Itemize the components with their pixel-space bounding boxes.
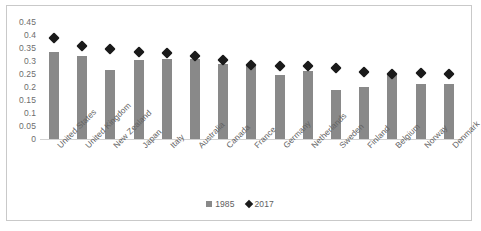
x-axis-tick: Australia [181,140,209,200]
y-axis-tick-label: 0 [31,134,36,144]
bar-1985[interactable] [162,59,172,139]
chart-container: 00.050.10.150.20.250.30.350.40.45 United… [6,5,472,221]
y-axis-tick-label: 0.3 [24,56,36,66]
y-axis-tick-label: 0.2 [24,82,36,92]
marker-2017[interactable] [274,60,285,71]
x-axis-tick: Japan [125,140,153,200]
x-axis-tick: Canada [209,140,237,200]
legend-diamond-icon [244,200,252,208]
x-axis-tick: Netherlands [294,140,322,200]
x-axis-tick: Denmark [435,140,463,200]
legend-label: 2017 [255,199,274,209]
y-axis: 00.050.10.150.20.250.30.350.40.45 [7,22,38,139]
x-axis-category-labels: United StatesUnited KingdomNew ZealandJa… [40,140,463,200]
bar-group[interactable] [266,22,294,139]
marker-2017[interactable] [415,68,426,79]
y-axis-tick-label: 0.05 [19,121,36,131]
marker-2017[interactable] [443,68,454,79]
bar-group[interactable] [350,22,378,139]
bar-group[interactable] [209,22,237,139]
bar-group[interactable] [435,22,463,139]
bar-group[interactable] [378,22,406,139]
marker-2017[interactable] [48,33,59,44]
marker-2017[interactable] [133,47,144,58]
marker-2017[interactable] [359,67,370,78]
legend-item[interactable]: 1985 [206,199,234,209]
y-axis-tick-label: 0.4 [24,30,36,40]
bar-group[interactable] [407,22,435,139]
x-axis-tick: Belgium [378,140,406,200]
bar-group[interactable] [181,22,209,139]
bar-group[interactable] [237,22,265,139]
bar-1985[interactable] [190,59,200,139]
y-axis-tick-label: 0.35 [19,43,36,53]
y-axis-tick-label: 0.1 [24,108,36,118]
bar-1985[interactable] [49,52,59,139]
chart-legend: 19852017 [7,199,473,209]
x-axis-tick: Germany [266,140,294,200]
x-axis-tick: United States [40,140,68,200]
x-axis-tick: New Zealand [96,140,124,200]
legend-square-icon [206,201,212,207]
x-axis-tick: Finland [350,140,378,200]
marker-2017[interactable] [161,48,172,59]
x-axis-tick: Italy [153,140,181,200]
x-axis-tick: Norway [407,140,435,200]
bar-group[interactable] [153,22,181,139]
legend-label: 1985 [215,199,234,209]
y-axis-tick-label: 0.25 [19,69,36,79]
x-axis-tick: Sweden [322,140,350,200]
marker-2017[interactable] [330,62,341,73]
y-axis-tick-label: 0.15 [19,95,36,105]
x-axis-tick: France [237,140,265,200]
x-axis-tick: United Kingdom [68,140,96,200]
y-axis-tick-label: 0.45 [19,17,36,27]
marker-2017[interactable] [105,43,116,54]
legend-item[interactable]: 2017 [246,199,274,209]
marker-2017[interactable] [77,41,88,52]
bar-group[interactable] [40,22,68,139]
